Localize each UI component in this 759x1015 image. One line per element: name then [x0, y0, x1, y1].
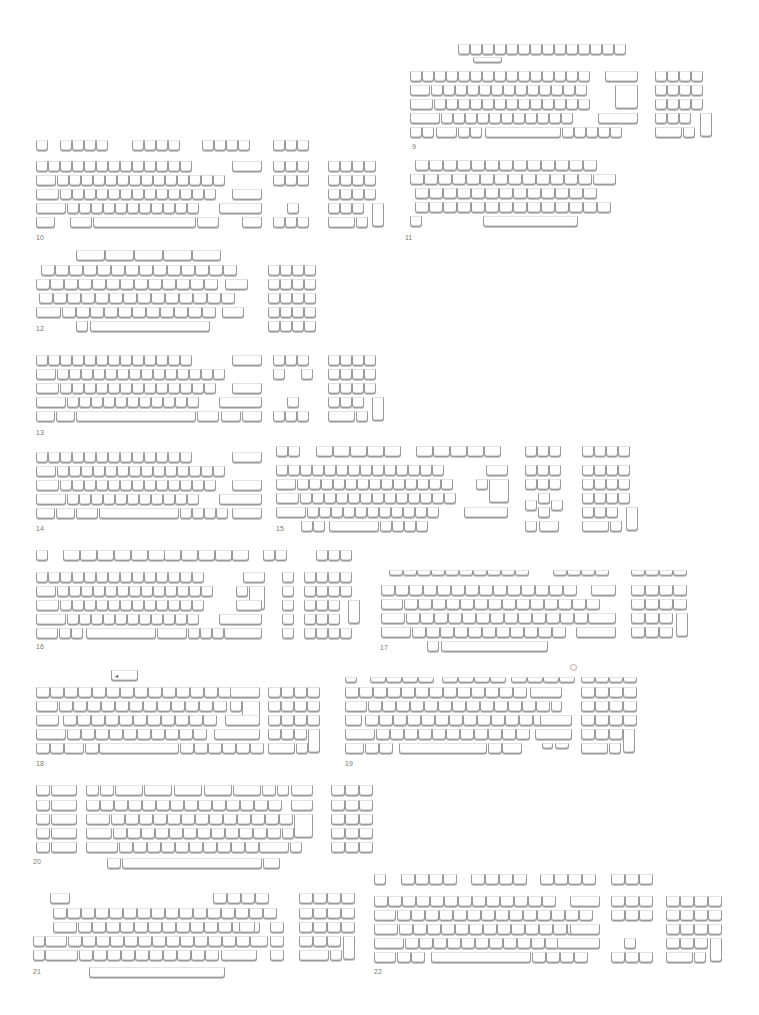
- key: [415, 687, 429, 698]
- key: [519, 715, 533, 726]
- key: [108, 383, 120, 394]
- key: [50, 279, 64, 290]
- key: [36, 217, 55, 228]
- key: [153, 175, 165, 186]
- key: [134, 687, 148, 698]
- key: [297, 161, 309, 172]
- key: [457, 160, 471, 171]
- figure-number-label: 18: [36, 760, 44, 767]
- key: [574, 952, 588, 963]
- key: [443, 188, 457, 199]
- key: [313, 922, 327, 933]
- key: [549, 113, 561, 124]
- key: [694, 910, 708, 921]
- key: [508, 174, 522, 185]
- key: [582, 479, 594, 490]
- key: [180, 572, 192, 583]
- key: [493, 585, 507, 596]
- key: [499, 160, 513, 171]
- key: [598, 113, 638, 124]
- key: [316, 550, 328, 561]
- key: [96, 355, 108, 366]
- key: [372, 203, 384, 227]
- key: [557, 938, 600, 949]
- key: [147, 715, 161, 726]
- key: [193, 729, 207, 740]
- key: [216, 508, 228, 519]
- key: [540, 874, 554, 885]
- key: [167, 814, 181, 825]
- key: [68, 936, 82, 947]
- key: [542, 743, 553, 749]
- key: [666, 938, 680, 949]
- key: [450, 446, 467, 457]
- key: [265, 814, 279, 825]
- key: [111, 814, 125, 825]
- key: [36, 189, 59, 200]
- figure-number-label: 12: [36, 325, 44, 332]
- key: [411, 910, 425, 921]
- key: [174, 307, 188, 318]
- key: [273, 175, 285, 186]
- key: [115, 614, 127, 625]
- key: [525, 521, 537, 532]
- key: [190, 687, 204, 698]
- key: [328, 189, 340, 200]
- key: [374, 910, 396, 921]
- key: [421, 715, 435, 726]
- key: [328, 161, 340, 172]
- key: [53, 293, 67, 304]
- key: [524, 627, 538, 638]
- key: [86, 785, 99, 796]
- key: [48, 161, 60, 172]
- key: [494, 71, 506, 82]
- key: [144, 572, 156, 583]
- key: [307, 687, 320, 698]
- key: [511, 924, 525, 935]
- key: [350, 446, 367, 457]
- key: [95, 729, 109, 740]
- key: [36, 480, 59, 491]
- key: [268, 800, 282, 811]
- key: [316, 628, 328, 639]
- key: [151, 614, 163, 625]
- key: [60, 480, 72, 491]
- key: [96, 600, 108, 611]
- key: [562, 127, 574, 138]
- key: [631, 585, 645, 596]
- key: [151, 729, 165, 740]
- key: [542, 99, 554, 110]
- key: [415, 160, 429, 171]
- key: [95, 908, 109, 919]
- key: [525, 924, 539, 935]
- key: [51, 828, 77, 839]
- key: [471, 160, 485, 171]
- key: [118, 307, 132, 318]
- key: [631, 570, 645, 576]
- key: [268, 687, 281, 698]
- key: [582, 521, 609, 532]
- key: [287, 203, 299, 214]
- key: [506, 99, 518, 110]
- key: [328, 572, 340, 583]
- key: [132, 140, 144, 151]
- key: [84, 452, 96, 463]
- key: [645, 585, 659, 596]
- key: [101, 701, 115, 712]
- key: [57, 175, 69, 186]
- key: [537, 479, 549, 490]
- key: [429, 202, 443, 213]
- key: [436, 127, 457, 138]
- key: [69, 466, 81, 477]
- key: [294, 701, 307, 712]
- figure-number-label: 9: [412, 143, 416, 150]
- key: [120, 383, 132, 394]
- key: [420, 613, 434, 624]
- key: [297, 411, 309, 422]
- key: [405, 938, 419, 949]
- key: [188, 628, 200, 639]
- key: [156, 452, 168, 463]
- key: [544, 599, 558, 610]
- key: [181, 550, 198, 561]
- key: [331, 507, 343, 518]
